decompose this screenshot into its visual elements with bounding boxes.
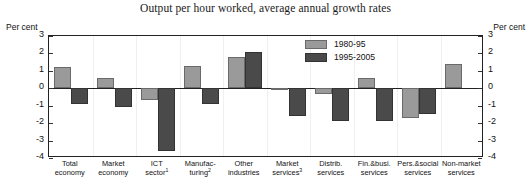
y-axis-tick: [478, 71, 482, 72]
legend-swatch: [305, 40, 327, 49]
chart-title: Output per hour worked, average annual g…: [0, 2, 531, 14]
legend-label: 1980-95: [334, 39, 366, 49]
bar-series2: [245, 52, 262, 89]
y-axis-tick: [49, 88, 53, 89]
y-tick-label-right: 2: [488, 47, 493, 56]
bar-series1: [358, 78, 375, 88]
group-separator: [136, 36, 137, 156]
group-separator: [397, 36, 398, 156]
y-axis-tick: [478, 88, 482, 89]
group-separator: [93, 36, 94, 156]
y-tick-label-right: -4: [488, 152, 496, 161]
y-tick-label-right: 3: [488, 30, 493, 39]
bar-series1: [141, 88, 158, 100]
y-tick-label-right: -2: [488, 117, 496, 126]
y-tick-label-right: -1: [488, 100, 496, 109]
y-tick-label-left: -4: [32, 152, 44, 161]
x-category-label: Manufac-turing2: [179, 160, 223, 177]
x-category-label: Marketservices3: [266, 160, 310, 177]
bar-series2: [419, 88, 436, 114]
group-separator: [441, 36, 442, 156]
bar-series2: [71, 88, 88, 104]
legend-item: 1995-2005: [305, 52, 375, 62]
y-tick-label-right: -3: [488, 135, 496, 144]
group-separator: [180, 36, 181, 156]
bar-series1: [315, 88, 332, 93]
x-category-label: Pers.&socialservices: [396, 160, 440, 177]
group-separator: [223, 36, 224, 156]
y-tick-label-left: -3: [32, 135, 44, 144]
y-axis-tick: [49, 158, 53, 159]
x-category-label: Otherindustries: [222, 160, 266, 177]
y-tick-label-left: 3: [32, 30, 44, 39]
y-tick-label-left: -2: [32, 117, 44, 126]
x-category-label: Distrib.services: [309, 160, 353, 177]
bar-series2: [202, 88, 219, 104]
x-category-label: Non-marketservices: [440, 160, 484, 177]
bar-series1: [184, 66, 201, 89]
bar-series2: [289, 88, 306, 116]
y-axis-tick: [49, 71, 53, 72]
y-axis-tick: [478, 53, 482, 54]
y-axis-unit-right: Per cent: [493, 22, 525, 32]
y-tick-label-left: 2: [32, 47, 44, 56]
y-axis-tick: [49, 36, 53, 37]
x-category-label: Marketeconomy: [92, 160, 136, 177]
legend-label: 1995-2005: [334, 52, 375, 62]
bar-series1: [97, 78, 114, 88]
bar-series2: [115, 88, 132, 107]
y-tick-label-right: 1: [488, 65, 493, 74]
y-axis-tick: [49, 106, 53, 107]
y-axis-tick: [49, 53, 53, 54]
y-tick-label-left: 1: [32, 65, 44, 74]
bar-series2: [332, 88, 349, 121]
group-separator: [267, 36, 268, 156]
legend-swatch: [305, 53, 327, 62]
y-tick-label-right: 0: [488, 82, 493, 91]
bar-series2: [376, 88, 393, 121]
x-category-label: Fin.&busi.services: [353, 160, 397, 177]
legend-item: 1980-95: [305, 39, 375, 49]
bar-series1: [54, 67, 71, 88]
y-axis-tick: [49, 141, 53, 142]
bar-series2: [158, 88, 175, 151]
chart-legend: 1980-951995-2005: [305, 39, 375, 62]
y-axis-tick: [478, 36, 482, 37]
plot-area: [48, 35, 483, 157]
x-category-label: ICTsector1: [135, 160, 179, 177]
bar-series1: [402, 88, 419, 118]
chart-figure: Output per hour worked, average annual g…: [0, 0, 531, 192]
x-category-label: Totaleconomy: [48, 160, 92, 177]
y-axis-tick: [478, 106, 482, 107]
y-tick-label-left: -1: [32, 100, 44, 109]
bar-series1: [271, 88, 288, 90]
y-axis-tick: [49, 123, 53, 124]
bar-series1: [445, 64, 462, 88]
bar-series1: [228, 57, 245, 88]
y-tick-label-left: 0: [32, 82, 44, 91]
y-axis-tick: [478, 141, 482, 142]
y-axis-tick: [478, 123, 482, 124]
